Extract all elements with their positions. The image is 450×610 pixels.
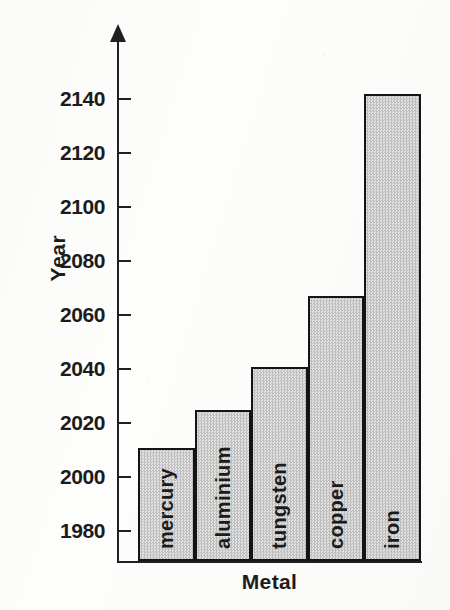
- bar-aluminium: aluminium: [195, 410, 252, 561]
- bars-layer: mercuryaluminiumtungstencopperiron: [0, 0, 450, 610]
- bar-copper: copper: [308, 296, 365, 561]
- bar-tungsten: tungsten: [251, 367, 308, 561]
- bar-iron: iron: [364, 94, 421, 561]
- bar-mercury: mercury: [138, 448, 195, 561]
- bar-chart-figure: 214021202100208020602040202020001980 Yea…: [0, 0, 450, 610]
